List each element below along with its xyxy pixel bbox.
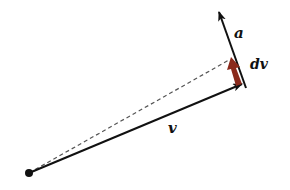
dashed-new-velocity-line	[29, 60, 229, 173]
velocity-acceleration-diagram: a dv v	[0, 0, 290, 190]
label-dv: dv	[250, 56, 269, 72]
label-a: a	[234, 24, 244, 42]
origin-point	[25, 169, 33, 177]
label-v: v	[168, 119, 177, 137]
velocity-vector-v	[29, 84, 242, 173]
diagram-svg: a dv v	[0, 0, 290, 190]
